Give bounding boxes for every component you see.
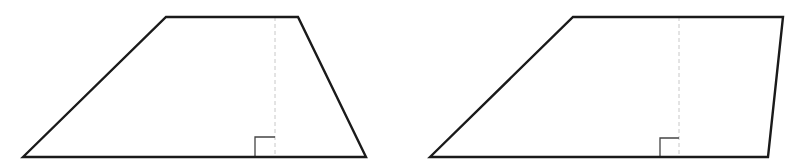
trapezoid-left xyxy=(23,17,366,157)
trapezoid-right xyxy=(430,17,783,157)
trapezoid-left-group xyxy=(23,17,366,157)
trapezoid-right-group xyxy=(430,17,783,157)
right-angle-marker-right xyxy=(660,138,679,157)
right-angle-marker-left xyxy=(255,137,275,157)
trapezoid-diagram xyxy=(0,0,802,165)
